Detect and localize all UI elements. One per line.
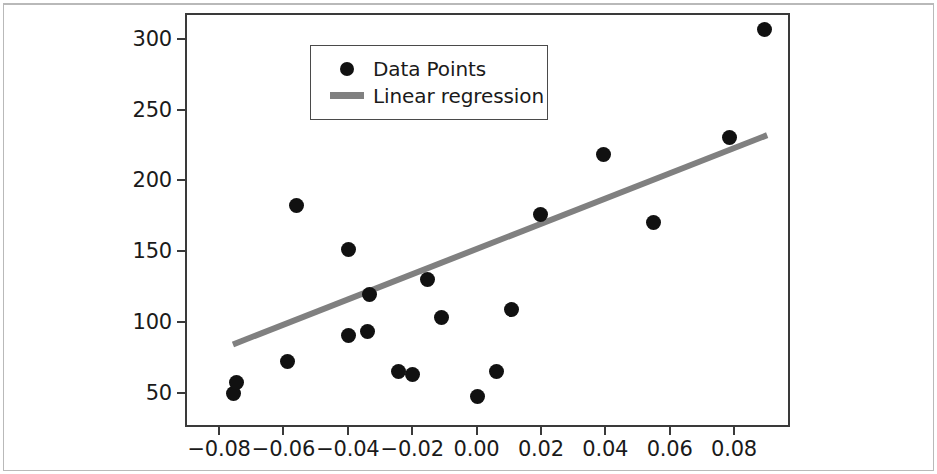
- scatter-point: [757, 22, 772, 37]
- regression-line-segment: [233, 135, 767, 344]
- scatter-point: [405, 367, 420, 382]
- legend-entry-linear-regression: Linear regression: [321, 82, 537, 109]
- scatter-point: [596, 147, 611, 162]
- scatter-point: [280, 354, 295, 369]
- legend-label-linear-regression: Linear regression: [373, 84, 544, 108]
- scatter-point: [434, 310, 449, 325]
- scatter-point: [646, 215, 661, 230]
- figure-page: −0.08−0.06−0.04−0.020.000.020.040.060.08…: [0, 0, 937, 474]
- scatter-point: [420, 272, 435, 287]
- scatter-point: [341, 242, 356, 257]
- legend-entry-data-points: Data Points: [321, 55, 537, 82]
- legend-marker-circle-icon: [321, 62, 373, 76]
- chart-legend: Data Points Linear regression: [310, 45, 548, 120]
- legend-marker-line-icon: [321, 92, 373, 99]
- scatter-chart-figure: −0.08−0.06−0.04−0.020.000.020.040.060.08…: [0, 0, 937, 474]
- scatter-point: [504, 302, 519, 317]
- legend-label-data-points: Data Points: [373, 57, 486, 81]
- scatter-point: [489, 364, 504, 379]
- scatter-point: [391, 364, 406, 379]
